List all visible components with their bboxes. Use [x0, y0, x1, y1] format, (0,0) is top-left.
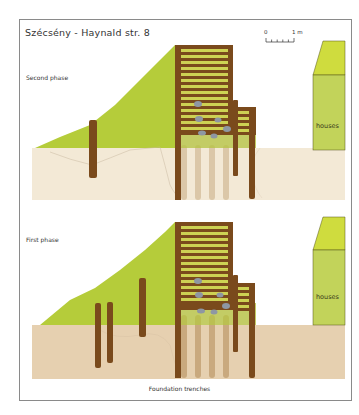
- house-roof: [313, 217, 345, 250]
- scale-end-label: 1 m: [292, 29, 303, 35]
- timber-post: [175, 45, 181, 200]
- timber-post-isolated: [139, 278, 146, 337]
- first-phase-panel: [32, 217, 345, 379]
- ground-layer: [32, 148, 345, 200]
- diagram-title: Szécsény - Haynald str. 8: [25, 27, 150, 38]
- timber-post: [233, 275, 238, 352]
- timber-post: [175, 222, 181, 378]
- scale-start-label: 0: [264, 29, 268, 35]
- house-roof: [313, 41, 345, 75]
- diagram-canvas: [0, 0, 359, 415]
- timber-post: [249, 107, 255, 199]
- house-body: [313, 75, 345, 150]
- second-phase-label: Second phase: [26, 74, 68, 81]
- second-phase-panel: [32, 41, 345, 200]
- hill-slope: [35, 45, 175, 148]
- house-label-second-phase: houses: [316, 122, 339, 130]
- timber-post: [249, 283, 255, 378]
- first-phase-label: First phase: [26, 236, 59, 243]
- timber-post-isolated: [89, 120, 97, 178]
- timber-post-isolated: [107, 302, 113, 363]
- timber-post-isolated: [95, 303, 101, 368]
- house-label-first-phase: houses: [316, 293, 339, 301]
- ground-layer: [32, 325, 345, 379]
- foundation-trenches-caption: Foundation trenches: [0, 385, 359, 392]
- timber-wall-main: [175, 222, 233, 310]
- scale-bar: [266, 38, 294, 42]
- house-body: [313, 250, 345, 325]
- timber-post: [233, 100, 238, 176]
